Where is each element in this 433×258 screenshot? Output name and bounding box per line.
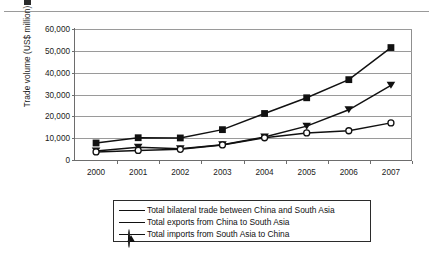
legend-item-imports: Total imports from South Asia to China bbox=[119, 228, 370, 240]
legend-label-exports: Total exports from China to South Asia bbox=[145, 217, 289, 227]
legend-label-imports: Total imports from South Asia to China bbox=[145, 229, 289, 239]
data-point-triangle bbox=[302, 123, 311, 130]
data-point-circle bbox=[219, 142, 225, 148]
legend-item-bilateral-trade: Total bilateral trade between China and … bbox=[119, 204, 370, 216]
data-point-square bbox=[177, 135, 184, 142]
data-point-circle bbox=[93, 149, 99, 155]
series-2 bbox=[92, 82, 395, 155]
data-point-circle bbox=[135, 147, 141, 153]
data-point-circle bbox=[262, 135, 268, 141]
data-point-triangle bbox=[345, 106, 354, 113]
data-point-square bbox=[135, 134, 142, 141]
data-point-square bbox=[303, 94, 310, 101]
data-point-circle bbox=[177, 146, 183, 152]
data-point-square bbox=[261, 110, 268, 117]
data-point-square bbox=[93, 140, 100, 147]
data-point-square bbox=[345, 76, 352, 83]
chart-figure: Trade volume (US$ million) 010,00020,000… bbox=[0, 0, 433, 258]
data-point-square bbox=[219, 126, 226, 133]
legend-item-exports: Total exports from China to South Asia bbox=[119, 216, 370, 228]
data-point-square bbox=[388, 44, 395, 51]
data-point-circle bbox=[388, 120, 394, 126]
data-point-circle bbox=[304, 130, 310, 136]
legend-key-circle-icon bbox=[119, 228, 145, 240]
data-point-circle bbox=[346, 128, 352, 134]
chart-legend: Total bilateral trade between China and … bbox=[113, 200, 371, 242]
legend-key-triangle-icon bbox=[119, 216, 145, 228]
legend-key-square-icon bbox=[119, 204, 145, 216]
legend-label-bilateral-trade: Total bilateral trade between China and … bbox=[145, 205, 335, 215]
